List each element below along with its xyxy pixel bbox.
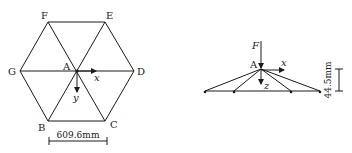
- apex-label-A: A: [249, 59, 258, 70]
- width-dimension-label: 609.6mm: [57, 130, 100, 140]
- height-dimension-label: 44.5mm: [323, 61, 333, 99]
- node-label-C: C: [110, 119, 118, 130]
- hexagon-truss: [20, 22, 134, 121]
- node-label-G: G: [8, 66, 16, 77]
- member-outer-left: [205, 69, 261, 91]
- support-node: [233, 91, 236, 94]
- node-label-A: A: [62, 61, 71, 72]
- truss-figure: F E G D A B C x y 609.6mm F A x z 44.5mm: [0, 0, 352, 153]
- member-inner-left: [234, 69, 261, 91]
- axis-label-z: z: [263, 80, 270, 91]
- support-node: [319, 91, 322, 94]
- support-node: [204, 91, 207, 94]
- node-label-D: D: [137, 66, 145, 77]
- support-node: [290, 91, 293, 94]
- elevation-truss: [204, 41, 322, 93]
- axis-label-x-elevation: x: [281, 57, 287, 68]
- axis-label-y: y: [72, 92, 79, 103]
- node-label-E: E: [106, 10, 113, 21]
- node-label-B: B: [38, 122, 45, 133]
- member-outer-right: [261, 69, 320, 91]
- node-label-F: F: [41, 10, 48, 21]
- force-label-F: F: [251, 40, 260, 51]
- axis-label-x: x: [94, 72, 100, 83]
- height-dimension: [335, 69, 343, 91]
